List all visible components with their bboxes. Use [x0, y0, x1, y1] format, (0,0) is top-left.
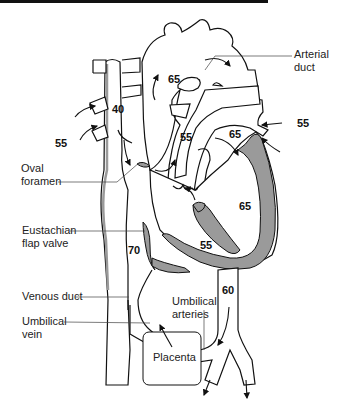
svg-text:Oval: Oval: [21, 162, 44, 174]
saturation-svc-inflow: 55: [55, 137, 67, 149]
svg-text:Eustachian: Eustachian: [22, 224, 76, 236]
saturation-pulmonary-artery: 55: [180, 131, 192, 143]
svg-text:duct: duct: [294, 61, 315, 73]
saturation-left-ventricle: 65: [239, 200, 251, 212]
saturation-svc: 40: [112, 103, 124, 115]
saturation-left-atrium: 65: [229, 128, 241, 140]
saturation-right-ventricle: 55: [200, 239, 212, 251]
fetal-circulation-diagram: 40 65 55 55 65 55 65 55 70 60 Arterial d…: [0, 0, 337, 418]
saturation-descending-aorta: 60: [222, 284, 234, 296]
svg-text:Venous duct: Venous duct: [22, 290, 83, 302]
saturation-pulmonary-veins: 55: [297, 117, 309, 129]
label-placenta: Placenta: [153, 351, 197, 363]
saturation-ivc: 70: [128, 244, 140, 256]
svg-text:Arterial: Arterial: [294, 48, 329, 60]
svg-text:flap valve: flap valve: [22, 237, 68, 249]
svg-text:arteries: arteries: [172, 308, 209, 320]
svg-text:foramen: foramen: [21, 175, 61, 187]
svg-text:vein: vein: [22, 328, 42, 340]
svg-text:Umbilical: Umbilical: [172, 295, 217, 307]
svg-text:Umbilical: Umbilical: [22, 315, 67, 327]
saturation-aorta: 65: [168, 73, 180, 85]
